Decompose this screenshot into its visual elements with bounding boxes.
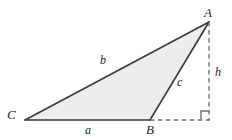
vertex-label-a: A bbox=[204, 6, 212, 19]
geometry-figure: A B C a b c h bbox=[0, 0, 232, 140]
right-angle-marker-icon bbox=[201, 111, 209, 119]
side-label-b: b bbox=[100, 54, 106, 66]
triangle-diagram-svg bbox=[0, 0, 232, 140]
side-label-c: c bbox=[177, 76, 182, 88]
altitude-label-h: h bbox=[215, 66, 221, 78]
side-label-a: a bbox=[85, 124, 91, 136]
vertex-label-b: B bbox=[146, 123, 154, 136]
vertex-label-c: C bbox=[7, 108, 16, 121]
